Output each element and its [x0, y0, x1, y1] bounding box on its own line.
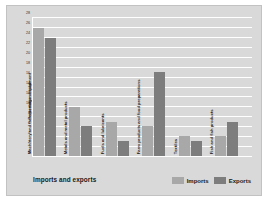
category-label: Machinery and transportation equipment — [28, 73, 32, 154]
bar-imports — [215, 136, 226, 156]
legend-swatch-icon — [172, 177, 184, 184]
gridline — [32, 156, 252, 157]
bar-imports — [179, 136, 190, 156]
y-axis-tick-label: 26 — [26, 23, 30, 27]
bar-groups: Machinery and transportation equipmentMe… — [33, 18, 252, 156]
bar-group: Fish and fish products — [215, 18, 251, 156]
y-axis-tick-label: 18 — [26, 62, 30, 66]
chart-figure: Percentage of total 02468101214161820222… — [6, 5, 262, 196]
category-label: Textiles — [174, 139, 178, 154]
category-label: Fuels and lubricants — [101, 113, 105, 154]
y-axis-tick-label: 22 — [26, 42, 30, 46]
bar-exports — [191, 141, 202, 156]
bar-imports — [142, 126, 153, 156]
legend-label: Imports — [187, 178, 209, 184]
bar-exports — [118, 141, 129, 156]
legend-label: Exports — [229, 178, 251, 184]
category-label: Metals and metal products — [64, 101, 68, 154]
plot-area: 0246810121416182022242628 Machinery and … — [32, 18, 252, 157]
bar-group: Farm products and food preparations — [142, 18, 178, 156]
category-label: Farm products and food preparations — [137, 79, 141, 154]
bar-exports — [154, 72, 165, 156]
bar-imports — [106, 122, 117, 157]
chart-legend: ImportsExports — [172, 177, 251, 184]
legend-swatch-icon — [214, 177, 226, 184]
x-axis-title: Imports and exports — [33, 176, 96, 183]
y-axis-tick-label: 24 — [26, 32, 30, 36]
legend-item-exports[interactable]: Exports — [214, 177, 251, 184]
y-axis-tick-label: 20 — [26, 52, 30, 56]
y-axis-tick-label: 28 — [26, 13, 30, 17]
bar-imports — [69, 107, 80, 156]
bar-exports — [81, 126, 92, 156]
legend-item-imports[interactable]: Imports — [172, 177, 209, 184]
bar-exports — [45, 38, 56, 156]
bar-exports — [227, 122, 238, 157]
category-label: Fish and fish products — [210, 109, 214, 154]
bar-imports — [33, 28, 44, 156]
